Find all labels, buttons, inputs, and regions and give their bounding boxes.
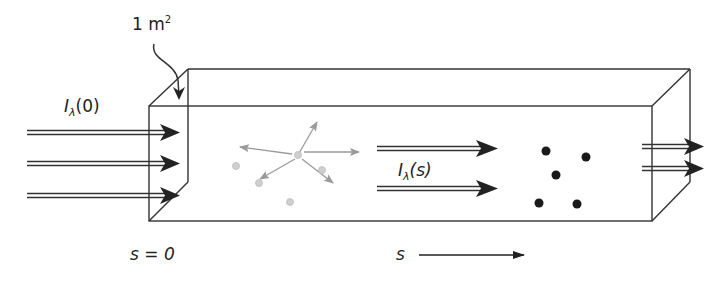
slab-box xyxy=(149,69,690,221)
incoming-arrows xyxy=(27,124,180,204)
middle-arrow-2 xyxy=(377,180,498,197)
path-axis-label: s xyxy=(396,244,405,264)
start-position-label: s = 0 xyxy=(130,244,175,264)
incoming-arrow-1 xyxy=(27,124,180,141)
area-pointer xyxy=(154,44,179,96)
middle-arrow-1 xyxy=(377,140,498,157)
outgoing-arrow-2 xyxy=(642,160,704,177)
transmitted-intensity-label: Iλ(s) xyxy=(398,160,432,180)
incoming-arrow-3 xyxy=(27,187,180,204)
middle-arrows xyxy=(377,140,498,197)
incident-intensity-label: Iλ(0) xyxy=(64,96,100,116)
outgoing-arrow-1 xyxy=(642,138,704,155)
area-label: 1 m2 xyxy=(132,14,171,34)
incoming-arrow-2 xyxy=(27,155,180,172)
scatter-particles xyxy=(233,152,326,206)
absorber-particles xyxy=(535,147,591,209)
slab-diagram xyxy=(0,0,725,281)
outgoing-arrows xyxy=(642,138,704,177)
